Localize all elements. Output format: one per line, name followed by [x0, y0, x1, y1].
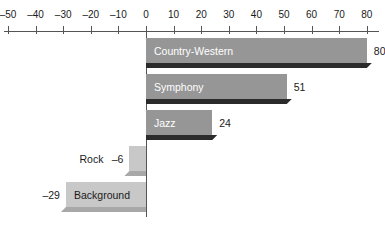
- x-tick-label: 20: [186, 9, 216, 21]
- x-tick: [256, 26, 257, 34]
- x-tick-label: –30: [48, 9, 78, 21]
- x-tick: [36, 26, 37, 34]
- bar-category-label: Jazz: [154, 117, 176, 129]
- x-tick-label: 30: [214, 9, 244, 21]
- bar-shadow: [61, 207, 146, 212]
- bar-shadow: [146, 63, 372, 68]
- x-tick: [312, 26, 313, 34]
- bar-category-label: Background: [74, 189, 130, 201]
- x-tick-label: –40: [21, 9, 51, 21]
- x-tick: [174, 26, 175, 34]
- bar-value-label: 80: [374, 45, 385, 57]
- x-axis-line: [4, 31, 379, 32]
- bar-negative: [129, 146, 146, 171]
- x-tick: [201, 26, 202, 34]
- x-tick: [229, 26, 230, 34]
- x-tick-label: 80: [352, 9, 382, 21]
- x-tick: [91, 26, 92, 34]
- x-tick-label: –50: [0, 9, 23, 21]
- x-tick: [284, 26, 285, 34]
- x-tick-label: 50: [269, 9, 299, 21]
- bar-shadow: [146, 135, 217, 140]
- bar-shadow: [124, 171, 146, 176]
- bar-value-label: 51: [294, 81, 306, 93]
- bar-value-label: –6: [0, 153, 123, 165]
- x-tick: [8, 26, 9, 34]
- x-tick-label: 0: [131, 9, 161, 21]
- x-tick-label: –20: [76, 9, 106, 21]
- x-tick-label: 10: [159, 9, 189, 21]
- bar-shadow: [146, 99, 292, 104]
- x-tick: [367, 26, 368, 34]
- bar-value-label: –29: [0, 189, 60, 201]
- x-tick-label: 60: [297, 9, 327, 21]
- x-tick: [118, 26, 119, 34]
- x-tick-label: 70: [324, 9, 354, 21]
- bar-value-label: 24: [219, 117, 231, 129]
- x-tick: [63, 26, 64, 34]
- x-tick-label: –10: [103, 9, 133, 21]
- bar-category-label: Symphony: [154, 81, 204, 93]
- bar-category-label: Country-Western: [154, 45, 233, 57]
- x-tick-label: 40: [241, 9, 271, 21]
- x-tick: [339, 26, 340, 34]
